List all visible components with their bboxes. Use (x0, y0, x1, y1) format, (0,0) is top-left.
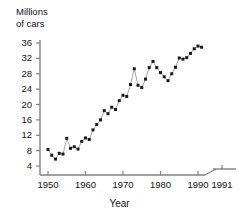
y-axis-tick-label: 32 (10, 52, 32, 63)
data-point-marker (133, 67, 136, 70)
data-point-marker (99, 118, 102, 121)
y-axis-tick-label: 36 (10, 37, 32, 48)
data-point-marker (170, 72, 173, 75)
y-axis-tick-label: 28 (10, 68, 32, 79)
data-point-marker (65, 137, 68, 140)
y-axis-tick-label: 16 (10, 114, 32, 125)
data-point-marker (84, 136, 87, 139)
data-point-marker (137, 84, 140, 87)
x-axis-tick-label: 1960 (66, 179, 106, 190)
data-point-marker (152, 60, 155, 63)
data-point-marker (47, 148, 50, 151)
data-point-marker (200, 46, 203, 49)
data-point-marker (103, 109, 106, 112)
data-point-marker (80, 140, 83, 143)
x-axis-tick-label: 1950 (28, 179, 68, 190)
x-axis-break-mark (205, 169, 216, 175)
x-axis-title: Year (0, 198, 239, 209)
data-point-marker (88, 138, 91, 141)
data-point-marker (197, 45, 200, 48)
data-point-marker (125, 95, 128, 98)
y-axis-tick-label: 4 (10, 160, 32, 171)
data-point-marker (167, 79, 170, 82)
y-axis-tick-label: 8 (10, 145, 32, 156)
data-point-marker (77, 148, 80, 151)
data-point-marker (50, 154, 53, 157)
data-point-marker (62, 153, 65, 156)
data-point-marker (95, 123, 98, 126)
data-point-marker (73, 145, 76, 148)
data-point-marker (110, 106, 113, 109)
y-axis-tick-label: 12 (10, 129, 32, 140)
data-point-marker (189, 52, 192, 55)
data-point-marker (193, 47, 196, 50)
data-point-marker (185, 56, 188, 59)
y-axis-tick-label: 24 (10, 83, 32, 94)
data-point-marker (155, 66, 158, 69)
data-point-marker (178, 56, 181, 59)
data-point-marker (118, 99, 121, 102)
data-point-marker (92, 128, 95, 131)
x-axis-tick-label: 1970 (103, 179, 143, 190)
data-point-marker (107, 112, 110, 115)
data-point-marker (140, 86, 143, 89)
data-point-marker (58, 152, 61, 155)
data-point-marker (148, 66, 151, 69)
data-point-marker (144, 78, 147, 81)
data-series-line (48, 46, 202, 159)
chart-figure: Millions of cars 3632282420161284 195019… (0, 0, 239, 216)
data-point-marker (129, 83, 132, 86)
x-axis-tick-label: 1991 (202, 179, 239, 190)
data-point-marker (182, 58, 185, 61)
x-axis-tick-label: 1980 (141, 179, 181, 190)
data-point-marker (114, 108, 117, 111)
data-point-marker (159, 71, 162, 74)
data-point-marker (54, 158, 57, 161)
y-axis-tick-label: 20 (10, 99, 32, 110)
data-point-marker (174, 66, 177, 69)
data-point-marker (122, 94, 125, 97)
data-point-marker (163, 75, 166, 78)
data-point-marker (69, 147, 72, 150)
